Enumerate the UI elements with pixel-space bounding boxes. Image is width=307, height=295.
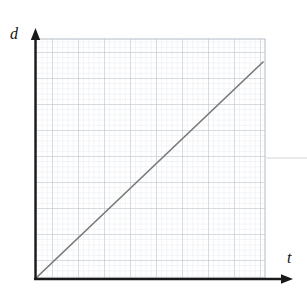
horizontal-axis-arrowhead bbox=[281, 274, 293, 284]
distance-time-graph-figure: d t bbox=[0, 0, 307, 295]
x-axis-label: t bbox=[287, 250, 291, 266]
y-axis-label: d bbox=[10, 26, 18, 42]
grid-area bbox=[36, 39, 265, 278]
vertical-axis-arrowhead bbox=[31, 28, 40, 40]
graph-canvas bbox=[0, 0, 307, 295]
